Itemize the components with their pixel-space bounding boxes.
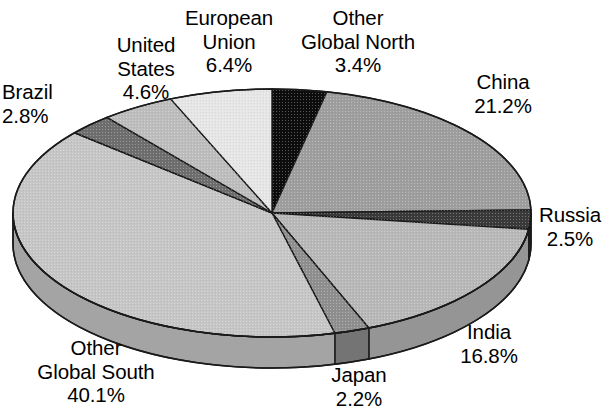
slice-label-brazil: Brazil 2.8% <box>2 80 53 127</box>
slice-label-india-value: 16.8% <box>440 344 538 368</box>
slice-label-european-union-name2: Union <box>170 30 288 54</box>
slice-label-brazil-value: 2.8% <box>2 104 53 128</box>
slice-label-other-global-north-value: 3.4% <box>290 53 426 77</box>
slice-label-india-name: India <box>440 320 538 344</box>
slice-label-russia-name: Russia <box>528 203 612 227</box>
slice-label-united-states-value: 4.6% <box>86 80 206 104</box>
slice-label-european-union: European Union 6.4% <box>170 6 288 77</box>
slice-label-other-global-south: Other Global South 40.1% <box>6 336 186 407</box>
slice-label-china-value: 21.2% <box>448 94 558 118</box>
slice-label-other-global-north-name1: Other <box>290 6 426 30</box>
slice-label-india: India 16.8% <box>440 320 538 367</box>
slice-label-other-global-north: Other Global North 3.4% <box>290 6 426 77</box>
slice-label-other-global-south-name2: Global South <box>6 360 186 384</box>
slice-label-russia: Russia 2.5% <box>528 203 612 250</box>
slice-label-brazil-name: Brazil <box>2 80 53 104</box>
pie-chart: Brazil 2.8% United States 4.6% European … <box>0 0 612 417</box>
slice-label-japan-name: Japan <box>310 363 408 387</box>
slice-label-other-global-north-name2: Global North <box>290 30 426 54</box>
slice-label-china: China 21.2% <box>448 70 558 117</box>
slice-label-china-name: China <box>448 70 558 94</box>
slice-label-japan-value: 2.2% <box>310 387 408 411</box>
slice-label-other-global-south-name1: Other <box>6 336 186 360</box>
slice-label-european-union-value: 6.4% <box>170 53 288 77</box>
slice-label-european-union-name1: European <box>170 6 288 30</box>
slice-label-japan: Japan 2.2% <box>310 363 408 410</box>
slice-label-russia-value: 2.5% <box>528 227 612 251</box>
slice-label-other-global-south-value: 40.1% <box>6 383 186 407</box>
